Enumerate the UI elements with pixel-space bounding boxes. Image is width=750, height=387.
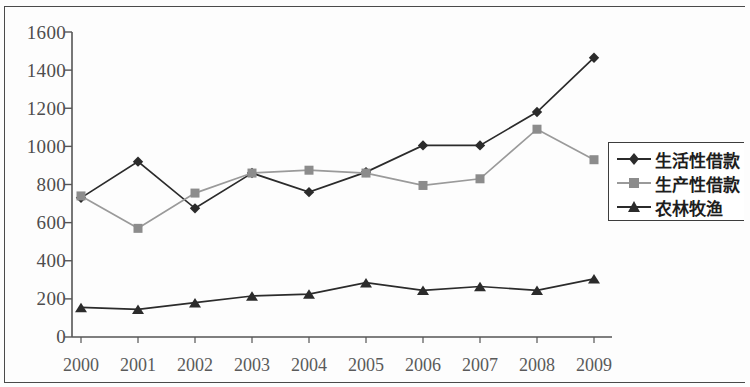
legend-label-1: 生产性借款 [655, 171, 740, 196]
legend-item-0: 生活性借款 [615, 147, 744, 171]
square-marker-icon [615, 173, 653, 193]
series-line [81, 58, 594, 209]
square-data-point [476, 174, 485, 183]
diamond-data-point [418, 140, 428, 150]
square-data-point [533, 125, 542, 134]
diamond-marker-icon [615, 149, 653, 169]
y-axis-ticks [65, 32, 594, 343]
chart-legend: 生活性借款 生产性借款 农林牧渔 [608, 142, 744, 221]
series-0 [76, 53, 599, 214]
series-line [81, 279, 594, 310]
square-data-point [419, 181, 428, 190]
square-data-point [590, 155, 599, 164]
legend-label-0: 生活性借款 [655, 147, 740, 172]
series-2 [75, 274, 600, 314]
data-series-group [75, 53, 600, 315]
square-data-point [77, 191, 86, 200]
diamond-data-point [304, 187, 314, 197]
square-data-point [248, 169, 257, 178]
axis-lines [72, 32, 612, 337]
legend-label-2: 农林牧渔 [655, 195, 723, 220]
chart-figure: 1600 1400 1200 1000 800 600 400 200 0 20… [0, 0, 750, 387]
square-data-point [134, 224, 143, 233]
square-data-point [305, 166, 314, 175]
diamond-data-point [475, 140, 485, 150]
series-1 [77, 125, 599, 233]
square-data-point [362, 169, 371, 178]
legend-item-2: 农林牧渔 [615, 195, 744, 219]
legend-item-1: 生产性借款 [615, 171, 744, 195]
square-data-point [191, 189, 200, 198]
triangle-marker-icon [615, 197, 653, 217]
